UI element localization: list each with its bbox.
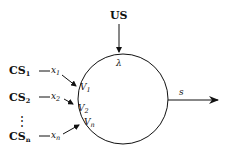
- x1-arrow: [62, 75, 76, 86]
- xn-arrow: [63, 125, 79, 134]
- cs2-sub: 2: [26, 97, 31, 105]
- input-row-1: CS1 x1 V1: [9, 64, 91, 94]
- ellipsis: ⋮: [16, 114, 28, 128]
- cs1-sub: 1: [26, 70, 31, 78]
- input-row-2: CS2 x2 V2: [9, 91, 89, 115]
- svg-text:xn: xn: [51, 130, 60, 142]
- x1-sub: 1: [56, 69, 60, 77]
- csn-label: CS: [9, 130, 26, 143]
- lambda-label: λ: [115, 58, 122, 68]
- vn-sub: n: [91, 121, 95, 129]
- svg-text:CS2: CS2: [9, 91, 30, 105]
- output-label: s: [179, 87, 184, 97]
- svg-text:CSn: CSn: [9, 130, 31, 144]
- x2-sub: 2: [55, 95, 60, 103]
- xn-sub: n: [56, 134, 60, 142]
- svg-text:x1: x1: [51, 65, 60, 77]
- us-label: US: [110, 9, 128, 22]
- neuron-diagram: US λ s CS1 x1 V1 CS2 x2 V2 ⋮ CSn xn Vn: [0, 0, 229, 157]
- svg-text:x2: x2: [51, 91, 60, 103]
- svg-text:V1: V1: [80, 82, 91, 94]
- v2-sub: 2: [84, 107, 89, 115]
- cs1-label: CS: [9, 64, 26, 77]
- svg-text:CS1: CS1: [9, 64, 30, 78]
- csn-sub: n: [26, 136, 31, 144]
- svg-text:Vn: Vn: [84, 117, 95, 129]
- v1-sub: 1: [87, 86, 91, 94]
- svg-text:V2: V2: [78, 103, 89, 115]
- neuron-circle: [78, 54, 168, 144]
- cs2-label: CS: [9, 91, 26, 104]
- x2-arrow: [64, 99, 73, 104]
